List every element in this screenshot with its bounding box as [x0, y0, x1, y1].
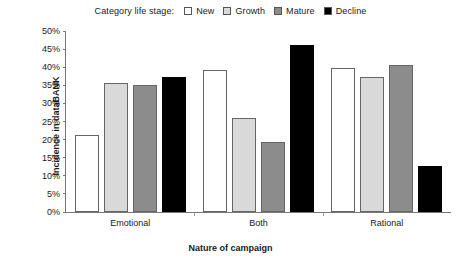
legend-entry-growth: Growth: [223, 6, 265, 16]
bar: [232, 118, 256, 212]
x-axis-category-separator: [194, 212, 195, 216]
bar: [418, 166, 442, 212]
y-axis-tick: 5%: [47, 189, 66, 199]
legend-entry-new: New: [184, 6, 214, 16]
bar: [133, 85, 157, 212]
legend-swatch-decline-icon: [324, 7, 332, 15]
y-axis-tick-label: 5%: [47, 189, 63, 199]
y-axis-title: Incidence in dataBANK: [51, 66, 61, 186]
bar: [331, 68, 355, 212]
bar: [104, 83, 128, 212]
bar: [360, 77, 384, 212]
x-axis-line: [65, 212, 451, 213]
x-axis-category-label: Rational: [370, 218, 403, 228]
legend-label-decline: Decline: [336, 6, 367, 16]
y-axis-tick-label: 45%: [42, 44, 63, 54]
bar: [389, 65, 413, 212]
legend-swatch-growth-icon: [223, 7, 231, 15]
legend-entry-mature: Mature: [274, 6, 315, 16]
legend-label-growth: Growth: [235, 6, 265, 16]
legend-label-mature: Mature: [286, 6, 315, 16]
bar: [75, 135, 99, 212]
y-axis-tick-label: 50%: [42, 26, 63, 36]
x-axis-title: Nature of campaign: [0, 243, 461, 253]
y-axis-tick: 50%: [42, 26, 66, 36]
y-axis-tick: 45%: [42, 44, 66, 54]
legend-title: Category life stage:: [95, 6, 175, 16]
legend-swatch-new-icon: [184, 7, 192, 15]
y-axis-tick: 0%: [47, 207, 66, 217]
bar: [261, 142, 285, 212]
x-axis-category-separator: [323, 212, 324, 216]
x-axis-category-label: Both: [249, 218, 268, 228]
plot-area: 50%45%40%35%30%25%20%15%10%5%0%: [66, 31, 451, 212]
bar-chart: Category life stage: New Growth Mature D…: [0, 0, 461, 265]
x-axis-category-label: Emotional: [110, 218, 150, 228]
bars-layer: [66, 31, 451, 212]
legend-entry-decline: Decline: [324, 6, 367, 16]
y-axis-tick-label: 0%: [47, 207, 63, 217]
legend-label-new: New: [196, 6, 214, 16]
bar: [162, 77, 186, 212]
chart-legend: Category life stage: New Growth Mature D…: [0, 6, 461, 16]
legend-swatch-mature-icon: [274, 7, 282, 15]
bar: [290, 45, 314, 212]
bar: [203, 70, 227, 212]
